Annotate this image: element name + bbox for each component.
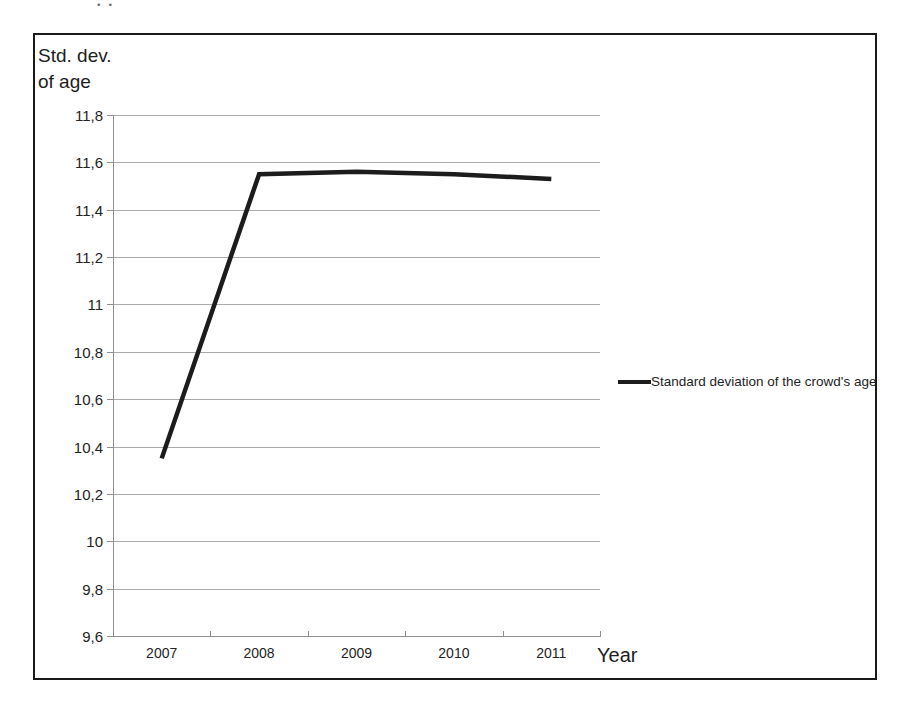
y-axis-tick-label: 11,8 xyxy=(75,107,103,124)
y-axis-tick-label: 9,6 xyxy=(82,628,103,645)
x-axis-tick-mark xyxy=(600,631,601,637)
y-axis-title: Std. dev. of age xyxy=(38,43,112,95)
x-axis-tick-label: 2011 xyxy=(536,645,566,661)
y-axis-tick-label: 9,8 xyxy=(82,580,103,597)
x-axis-title: Year xyxy=(597,644,637,667)
series-line-chart xyxy=(113,115,600,636)
x-axis-tick-label: 2008 xyxy=(244,645,275,661)
x-axis-tick-label: 2007 xyxy=(146,645,177,661)
y-axis-tick-label: 10,6 xyxy=(74,391,103,408)
y-axis-tick-labels: 9,69,81010,210,410,610,81111,211,411,611… xyxy=(30,115,103,636)
x-axis-tick-label: 2010 xyxy=(438,645,469,661)
scan-artifact-text: .. xyxy=(96,0,216,4)
legend: Standard deviation of the crowd's age xyxy=(618,374,876,389)
y-axis-tick-label: 10,8 xyxy=(74,343,103,360)
y-axis-tick-label: 11,4 xyxy=(75,201,103,218)
y-axis-tick-label: 10,4 xyxy=(74,438,103,455)
legend-swatch-standard-deviation xyxy=(618,380,651,384)
legend-label-standard-deviation: Standard deviation of the crowd's age xyxy=(651,374,876,389)
x-axis-tick-labels: 20072008200920102011 xyxy=(113,645,600,669)
y-axis-tick-label: 10 xyxy=(86,533,103,550)
x-axis-line xyxy=(113,636,600,637)
x-axis-tick-label: 2009 xyxy=(341,645,372,661)
series-line-standard-deviation xyxy=(162,172,552,459)
y-axis-tick-label: 10,2 xyxy=(74,485,103,502)
y-axis-tick-label: 11 xyxy=(87,296,103,313)
y-axis-tick-label: 11,2 xyxy=(75,249,103,266)
y-axis-tick-label: 11,6 xyxy=(75,154,103,171)
